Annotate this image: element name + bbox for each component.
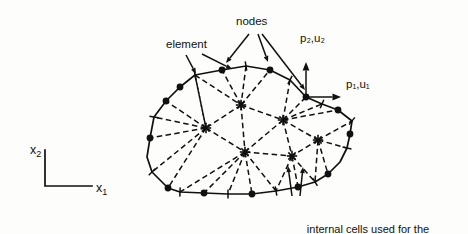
caption-leader-shaft (300, 173, 302, 196)
cell-edge (228, 152, 245, 194)
node-dot (165, 185, 172, 192)
p2-u2-vector-head (303, 62, 310, 71)
cell-edge (283, 120, 318, 140)
cell-edge (150, 128, 206, 138)
p2-u2-label: p₂,u₂ (300, 32, 325, 45)
cell-edge (283, 80, 290, 120)
cell-edge (222, 70, 241, 105)
nodes-label: nodes (236, 15, 267, 28)
node-dot (147, 135, 154, 142)
cell-edge (204, 152, 245, 193)
p1-u1-label: p₁,u₁ (346, 78, 370, 91)
cell-edge (241, 105, 245, 152)
boundary-tick-marks (149, 61, 355, 198)
boundary-tick (275, 186, 277, 195)
p1-u1-vector-head (333, 94, 342, 101)
cell-edge (315, 140, 318, 182)
node-dot (347, 131, 354, 138)
node-dot (325, 171, 332, 178)
cell-edge (152, 128, 206, 172)
axis-x2-label: x2 (30, 143, 41, 159)
cell-edge (318, 140, 328, 174)
element-leader-shaft (186, 55, 193, 69)
internal-cells-caption: internal cells used for the integration … (272, 198, 464, 234)
coordinate-axes (45, 150, 92, 186)
cell-edge (245, 152, 292, 156)
interior-cell-junctions (201, 100, 323, 161)
cell-edge (283, 104, 322, 120)
cell-edge (180, 152, 245, 192)
node-dot (267, 67, 274, 74)
cell-edge (245, 152, 252, 194)
cell-edge (318, 121, 352, 140)
cell-edge (245, 120, 283, 152)
node-dot (163, 98, 170, 105)
cell-edge (168, 128, 206, 188)
cell-edge (241, 66, 246, 105)
cell-edge (241, 105, 283, 120)
element-leader-head (191, 68, 196, 74)
nodes-leader-shaft (230, 34, 249, 58)
axis-x1-subscript: 1 (102, 187, 107, 197)
node-dot (201, 190, 208, 197)
element-leader-shaft (202, 54, 227, 66)
caption-line-1: internal cells used for the (272, 223, 464, 234)
axis-x1-label: x1 (96, 181, 107, 197)
boundary-tick (343, 147, 352, 149)
p2-u2-text: p₂,u₂ (300, 32, 325, 44)
boundary-element-mesh-figure: element nodes p₂,u₂ p₁,u₁ internal cells… (0, 0, 468, 234)
axis-x2-subscript: 2 (36, 149, 41, 159)
node-dot (219, 67, 226, 74)
nodes-leader-head (264, 56, 269, 62)
element-label: element (166, 38, 207, 51)
node-dot (249, 191, 256, 198)
cell-edge (283, 120, 292, 156)
boundary-tick (149, 116, 158, 118)
cell-edge (206, 105, 241, 128)
cell-edge (195, 75, 241, 105)
caption-leader-shaft (289, 172, 292, 196)
cell-edge (292, 140, 318, 156)
p1-u1-text: p₁,u₁ (346, 78, 370, 90)
cell-edge (292, 156, 298, 187)
axes-corner (45, 150, 92, 186)
node-dot (177, 84, 184, 91)
cell-edge (206, 128, 245, 152)
cell-edge (245, 152, 276, 191)
element-leader-head (226, 64, 232, 69)
node-dot (335, 107, 342, 114)
